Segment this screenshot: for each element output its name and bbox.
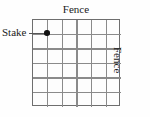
- fence-grid-figure: Fence Fence Stake: [0, 0, 150, 117]
- fence-label-right: Fence: [111, 47, 124, 73]
- stake-marker-dot: [44, 30, 50, 36]
- stake-label: Stake: [2, 26, 26, 39]
- fence-label-top: Fence: [32, 3, 120, 16]
